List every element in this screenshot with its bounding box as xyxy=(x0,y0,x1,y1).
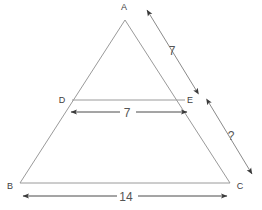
edge-ab xyxy=(20,20,125,183)
vertex-label-c: C xyxy=(237,181,244,191)
triangle-diagram-canvas: A B C D E 7 7 ? 14 xyxy=(0,0,262,210)
dimension-bc: 14 xyxy=(23,190,227,204)
dimension-ae: 7 xyxy=(147,10,196,90)
dimension-label-ec: ? xyxy=(228,129,235,143)
dimension-label-de: 7 xyxy=(124,106,131,120)
dimension-de: 7 xyxy=(71,106,187,120)
dimension-label-bc: 14 xyxy=(119,190,133,204)
geometry-figure: A B C D E 7 7 ? 14 xyxy=(0,0,262,210)
vertex-label-b: B xyxy=(7,181,13,191)
edge-ac xyxy=(125,20,230,183)
dimension-ec: ? xyxy=(209,103,252,174)
vertex-label-e: E xyxy=(187,95,193,105)
dimension-label-ae: 7 xyxy=(169,44,176,58)
vertex-labels: A B C D E xyxy=(7,2,244,191)
vertex-label-a: A xyxy=(121,2,127,12)
triangle-outline xyxy=(20,20,230,183)
vertex-label-d: D xyxy=(59,95,66,105)
